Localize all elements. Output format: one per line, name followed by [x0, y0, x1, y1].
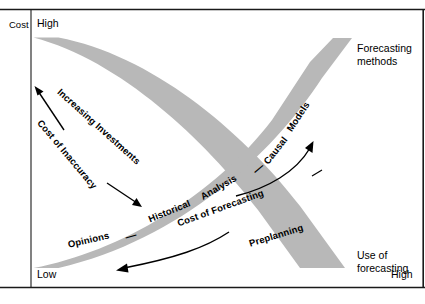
forecasting-methods-label-line1: Forecasting — [357, 43, 412, 55]
forecasting-methods-label-line2: methods — [357, 56, 397, 68]
cost-of-forecasting-leader — [312, 170, 322, 176]
y-axis-high-label: High — [37, 18, 59, 30]
forecasting-cost-diagram: Cost High Low High Forecasting methods U… — [0, 0, 425, 304]
use-of-forecasting-label-line2: forecasting — [357, 263, 408, 275]
y-axis-title: Cost — [9, 20, 29, 31]
increasing-investments-arrow — [107, 183, 142, 207]
use-of-forecasting-label-line1: Use of — [357, 250, 387, 262]
y-axis-low-label: Low — [37, 269, 56, 281]
